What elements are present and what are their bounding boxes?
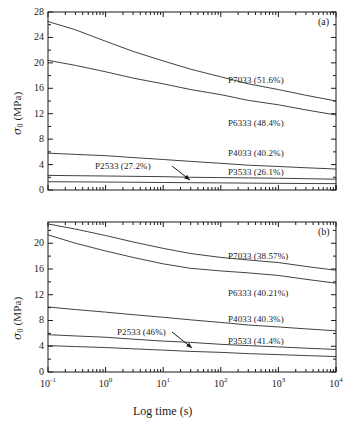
x-tick-exponent: 1 (166, 376, 170, 384)
panel-a-curve-label: P7033 (51.6%) (228, 75, 284, 85)
panel-b-curve-1 (48, 235, 336, 283)
panel-a-y-tick-label: 0 (18, 184, 44, 195)
panel-b-y-tick-label: 20 (18, 237, 44, 248)
panel-a-y-tick-label: 24 (18, 31, 44, 42)
x-tick-exponent: 3 (282, 376, 286, 384)
panel-label-a: (a) (318, 16, 329, 27)
x-tick-exponent: 2 (224, 376, 228, 384)
x-tick-mantissa: 10 (156, 378, 166, 389)
x-axis-title: Log time (s) (133, 404, 192, 419)
panel-a-curve-label: P3533 (26.1%) (228, 167, 284, 177)
panel-a-curve-0 (48, 22, 336, 101)
x-tick-mantissa: 10 (272, 378, 282, 389)
panel-a-curve-1 (48, 60, 336, 115)
x-tick-mantissa: 10 (40, 378, 50, 389)
figure-stress-relaxation: σ0 (MPa) σ0 (MPa) Log time (s) (a) (b) 0… (0, 0, 351, 423)
x-tick-label: 101 (147, 376, 179, 389)
panel-a-y-tick-label: 28 (18, 6, 44, 17)
panel-a-y-tick-label: 20 (18, 57, 44, 68)
x-tick-mantissa: 10 (214, 378, 224, 389)
panel-b-curve-label: P6333 (40.21%) (228, 288, 288, 298)
panel-a-y-tick-label: 16 (18, 82, 44, 93)
panel-b-curve-label: P7033 (38.57%) (228, 251, 288, 261)
x-tick-exponent: 0 (109, 376, 113, 384)
panel-a-curve-label: P4033 (40.2%) (228, 148, 284, 158)
panel-a-curve-label: P2533 (27.2%) (95, 161, 151, 171)
panel-a-curve-4 (48, 182, 336, 184)
panel-a-curve-3 (48, 175, 336, 179)
panel-b-y-tick-label: 8 (18, 314, 44, 325)
panel-label-b: (b) (318, 226, 330, 237)
panel-a-y-tick-label: 8 (18, 133, 44, 144)
panel-b-annotation-arrow (172, 332, 192, 348)
sigma-subscript-b: 0 (16, 328, 25, 332)
panel-b-y-tick-label: 4 (18, 340, 44, 351)
sigma-symbol-b: σ (11, 332, 24, 340)
x-tick-exponent: 4 (339, 376, 343, 384)
panel-b-curve-label: P3533 (41.4%) (228, 336, 284, 346)
panel-b-curve-label: P4033 (40.3%) (228, 314, 284, 324)
x-tick-exponent: -1 (50, 376, 56, 384)
panel-a-y-tick-label: 12 (18, 108, 44, 119)
panel-b-y-tick-label: 16 (18, 263, 44, 274)
panel-b-curve-label: P2533 (46%) (117, 327, 166, 337)
panel-a-frame (48, 12, 336, 190)
panel-b-frame (48, 222, 336, 372)
x-tick-label: 100 (90, 376, 122, 389)
panel-b-y-tick-label: 12 (18, 289, 44, 300)
x-tick-label: 103 (262, 376, 294, 389)
x-tick-mantissa: 10 (329, 378, 339, 389)
x-tick-mantissa: 10 (99, 378, 109, 389)
x-tick-label: 104 (320, 376, 351, 389)
panel-a-curve-label: P6333 (48.4%) (228, 118, 284, 128)
panel-a-y-tick-label: 4 (18, 159, 44, 170)
panel-b-curve-2 (48, 307, 336, 331)
panel-a-curve-2 (48, 153, 336, 169)
panel-a-annotation-arrow (172, 166, 190, 180)
x-tick-label: 10-1 (32, 376, 64, 389)
plot-canvas (0, 0, 351, 423)
sigma-subscript-a: 0 (16, 123, 25, 127)
x-tick-label: 102 (205, 376, 237, 389)
